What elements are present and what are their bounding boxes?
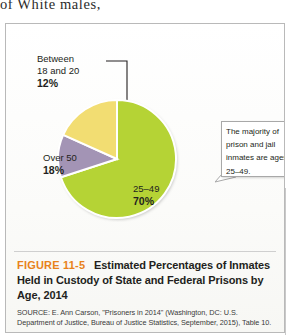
- page-body-text: of White males,: [0, 0, 297, 13]
- label-25-49-name: 25–49: [133, 183, 159, 195]
- annotation-callout-body: The majority of prison and jail inmates …: [221, 121, 285, 177]
- caption-divider: [14, 251, 276, 252]
- label-between-18-and-20-value: 12%: [37, 77, 79, 90]
- label-between-18-and-20-line2: 18 and 20: [37, 65, 79, 77]
- label-over-50-name: Over 50: [43, 152, 77, 164]
- annotation-callout-text: The majority of prison and jail inmates …: [226, 125, 285, 178]
- label-over-50: Over 50 18%: [43, 152, 77, 177]
- figure-box: Between 18 and 20 12% Over 50 18% 25–49 …: [5, 23, 285, 333]
- page-gutter-rule: [285, 188, 286, 335]
- pie-chart-area: Between 18 and 20 12% Over 50 18% 25–49 …: [6, 24, 284, 249]
- figure-number: FIGURE 11-5: [17, 259, 85, 271]
- figure-source: SOURCE: E. Ann Carson, "Prisoners in 201…: [17, 308, 275, 330]
- figure-caption: FIGURE 11-5 Estimated Percentages of Inm…: [17, 258, 275, 329]
- label-over-50-value: 18%: [43, 164, 77, 177]
- caption-heading: FIGURE 11-5 Estimated Percentages of Inm…: [17, 258, 275, 304]
- label-between-18-and-20: Between 18 and 20 12%: [37, 53, 79, 90]
- label-25-49: 25–49 70%: [133, 183, 159, 208]
- annotation-callout: The majority of prison and jail inmates …: [215, 121, 285, 183]
- label-between-18-and-20-line1: Between: [37, 53, 79, 65]
- label-25-49-value: 70%: [133, 195, 159, 208]
